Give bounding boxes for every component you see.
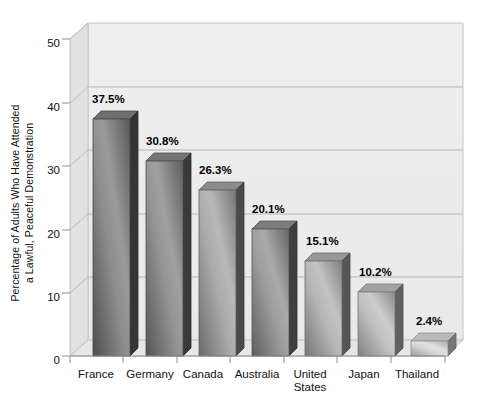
bar-value-label-france: 37.5% <box>92 93 125 105</box>
y-tick-label-50: 50 <box>34 37 60 49</box>
bar-japan <box>358 284 403 356</box>
x-tick-label-canada-line-1: Canada <box>183 368 223 380</box>
bar-value-label-australia: 20.1% <box>252 203 285 215</box>
bar-canada <box>199 182 244 356</box>
x-tick-label-united-states-line-2: States <box>294 381 327 393</box>
x-tick-label-france-line-1: France <box>78 368 114 380</box>
bar-germany <box>146 153 191 356</box>
plot-area <box>0 0 478 406</box>
x-tick-label-germany-line-1: Germany <box>126 368 173 380</box>
bar-value-label-japan: 10.2% <box>359 266 392 278</box>
bar-value-label-germany: 30.8% <box>146 135 179 147</box>
y-tick-label-30: 30 <box>34 164 60 176</box>
bar-value-label-canada: 26.3% <box>199 164 232 176</box>
y-tick-label-20: 20 <box>34 228 60 240</box>
bar-chart: Percentage of Adults Who Have Attended a… <box>0 0 478 406</box>
y-tick-label-10: 10 <box>34 291 60 303</box>
x-tick-label-japan-line-1: Japan <box>348 368 379 380</box>
bar-value-label-united-states: 15.1% <box>306 235 339 247</box>
x-tick-label-united-states-line-1: United <box>293 368 326 380</box>
y-axis-ticks <box>62 39 70 356</box>
x-tick-label-thailand: Thailand <box>384 368 450 381</box>
plot-left-wall <box>70 23 88 356</box>
bar-value-label-thailand: 2.4% <box>416 315 442 327</box>
bar-france <box>93 111 138 356</box>
x-axis-ticks <box>70 356 445 363</box>
y-tick-label-40: 40 <box>34 101 60 113</box>
bar-united-states <box>305 253 350 356</box>
bar-thailand <box>411 333 456 356</box>
x-tick-label-thailand-line-1: Thailand <box>395 368 439 380</box>
x-tick-label-australia-line-1: Australia <box>235 368 280 380</box>
y-tick-label-0: 0 <box>34 354 60 366</box>
bar-australia <box>252 221 297 356</box>
